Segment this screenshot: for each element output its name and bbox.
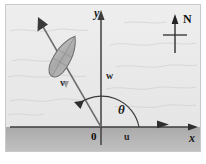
x-axis: [10, 123, 198, 130]
diagram-svg: [6, 5, 201, 152]
theta-angle-label: θ: [118, 103, 125, 116]
y-axis: [97, 10, 104, 145]
figure-frame: y x 0 v w u θ N: [5, 4, 201, 152]
vector-u-label: u: [124, 132, 130, 142]
x-axis-label: x: [189, 132, 195, 144]
figure-root: y x 0 v w u θ N: [0, 0, 206, 164]
north-label: N: [183, 13, 192, 25]
theta-arc: [74, 96, 139, 127]
velocity-vector-v: [38, 17, 102, 127]
vector-v-label: v: [60, 78, 65, 88]
vector-w-label: w: [106, 71, 113, 81]
y-axis-label: y: [94, 7, 99, 19]
water-texture: [8, 22, 197, 115]
origin-label: 0: [91, 131, 97, 142]
